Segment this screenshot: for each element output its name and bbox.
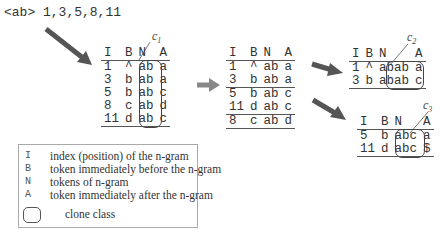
clone-class-swatch-icon xyxy=(23,207,41,223)
table-header: I B N A xyxy=(101,47,170,61)
ngram-table-2: IBNA 1^aba 3baba 5babc 11dabc 8cabd xyxy=(226,37,295,129)
header-a: A xyxy=(157,47,171,61)
table-row: 3baba xyxy=(226,74,295,88)
table-row: 11dabc xyxy=(226,101,295,115)
arrow-table2-to-table4 xyxy=(313,100,346,120)
table-row: 8cabd xyxy=(226,115,295,129)
legend-clone-class-label: clone class xyxy=(65,208,115,220)
legend: Iindex (position) of the n-gram Btoken i… xyxy=(18,144,198,228)
table-header: IBNA xyxy=(349,48,426,62)
clone-label-c2: c2 xyxy=(407,30,416,46)
ngram-table-3: c2 IBNA 1^ababa 3bababc xyxy=(349,38,426,89)
clone-class-box-c1 xyxy=(139,60,162,128)
header-n: N xyxy=(136,47,157,61)
arrow-table1-to-table2 xyxy=(197,78,220,92)
clone-class-box-c2 xyxy=(386,61,424,90)
ngram-table-1: c1 I B N A 1^aba 3baba 5babc 8cabd 11dab… xyxy=(101,37,170,127)
header-b: B xyxy=(122,47,136,61)
arrow-query-to-table1 xyxy=(46,29,92,65)
table-header: IBNA xyxy=(226,47,295,61)
table-header: IBNA xyxy=(357,116,434,130)
header-i: I xyxy=(101,47,122,61)
table-row: 5babc xyxy=(226,88,295,102)
ngram-table-4: c3 IBNA 5babca 11dabc$ xyxy=(357,106,434,157)
table-row: 1^aba xyxy=(226,61,295,75)
clone-class-box-c3 xyxy=(395,129,425,158)
clone-label-c3: c3 xyxy=(423,98,432,114)
clone-label-c1: c1 xyxy=(152,29,161,45)
arrow-table2-to-table3 xyxy=(312,63,343,76)
